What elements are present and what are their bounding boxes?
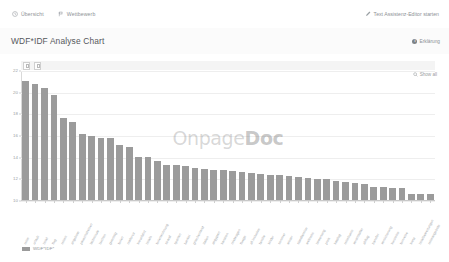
page-title-row: WDF*IDF Analyse Chart i Erklärung xyxy=(0,28,449,55)
flag-icon xyxy=(58,11,64,17)
y-axis-tick-label: 18 xyxy=(13,112,18,116)
bar[interactable] xyxy=(116,145,123,200)
bar[interactable] xyxy=(380,187,387,200)
bar[interactable] xyxy=(60,118,67,200)
bar-column xyxy=(96,71,105,200)
chart-panel: Show all 10121416182022 OnpageDoc reiseu… xyxy=(0,54,449,262)
bar-column xyxy=(284,71,293,200)
bar[interactable] xyxy=(88,136,95,200)
bar[interactable] xyxy=(192,168,199,201)
bar-column xyxy=(237,71,246,200)
bar[interactable] xyxy=(201,169,208,200)
x-axis-tick-label: preis xyxy=(325,237,332,245)
bar-column xyxy=(106,71,115,200)
bar[interactable] xyxy=(69,122,76,200)
bar[interactable] xyxy=(417,194,424,201)
x-axis-tick-label: urlaub xyxy=(33,235,41,245)
x-axis-tick-label: buchen xyxy=(99,233,107,245)
explanation-label: Erklärung xyxy=(419,39,440,44)
x-axis-tick-label: katalog xyxy=(334,233,342,245)
bar[interactable] xyxy=(229,171,236,200)
bar[interactable] xyxy=(352,183,359,200)
bar-column xyxy=(153,71,162,200)
explanation-link[interactable]: i Erklärung xyxy=(412,39,449,44)
x-axis-tick-label: fluege xyxy=(240,235,248,245)
bar-column xyxy=(21,71,30,200)
bar[interactable] xyxy=(248,173,255,200)
pencil-icon xyxy=(365,11,371,17)
bar[interactable] xyxy=(182,166,189,200)
x-axis-tick-label: ferien xyxy=(118,236,125,245)
bar[interactable] xyxy=(41,88,48,200)
bar[interactable] xyxy=(126,147,133,200)
bar[interactable] xyxy=(145,157,152,200)
start-text-assistant-editor-button[interactable]: Text Assistenz-Editor starten xyxy=(365,11,449,17)
bar-column xyxy=(228,71,237,200)
bar-column xyxy=(30,71,39,200)
bar-column xyxy=(407,71,416,200)
bar[interactable] xyxy=(427,194,434,201)
bar[interactable] xyxy=(408,194,415,201)
panel-toggle-2-button[interactable] xyxy=(34,62,41,70)
bar[interactable] xyxy=(107,138,114,200)
bar-column xyxy=(369,71,378,200)
bar[interactable] xyxy=(32,84,39,200)
y-axis-tick-label: 14 xyxy=(13,155,18,159)
x-axis-tick-label: kinder xyxy=(268,235,276,245)
bar[interactable] xyxy=(305,178,312,200)
bar-column xyxy=(341,71,350,200)
bar[interactable] xyxy=(257,174,264,200)
bar[interactable] xyxy=(267,175,274,200)
bar-column xyxy=(77,71,86,200)
bar[interactable] xyxy=(79,134,86,200)
bar[interactable] xyxy=(342,182,349,200)
bar[interactable] xyxy=(51,95,58,200)
y-axis-tick-label: 12 xyxy=(13,177,18,181)
bar-column xyxy=(219,71,228,200)
bar[interactable] xyxy=(154,161,161,200)
bar[interactable] xyxy=(295,177,302,200)
clock-icon xyxy=(12,11,18,17)
y-axis-tick-label: 22 xyxy=(13,69,18,73)
bar[interactable] xyxy=(239,172,246,200)
bar[interactable] xyxy=(286,176,293,200)
bar-column xyxy=(378,71,387,200)
bar-column xyxy=(313,71,322,200)
chart-legend-item[interactable]: WDF*IDF* xyxy=(22,246,54,251)
x-axis-tick-label: reisen xyxy=(61,235,69,245)
bar[interactable] xyxy=(135,157,142,200)
bar[interactable] xyxy=(323,179,330,200)
panel-toggle-1-button[interactable] xyxy=(23,62,30,70)
bar[interactable] xyxy=(276,175,283,200)
bar-column xyxy=(40,71,49,200)
bar-column xyxy=(181,71,190,200)
bar-column xyxy=(124,71,133,200)
bar-column xyxy=(59,71,68,200)
x-axis-tick-label: winter xyxy=(287,235,294,245)
bar[interactable] xyxy=(399,188,406,200)
bar[interactable] xyxy=(173,165,180,200)
bar-column xyxy=(360,71,369,200)
bar-column xyxy=(134,71,143,200)
bar[interactable] xyxy=(98,138,105,200)
nav-tab-wettbewerb[interactable]: Wettbewerb xyxy=(58,11,96,17)
bar[interactable] xyxy=(220,170,227,200)
nav-tab-wettbewerb-label: Wettbewerb xyxy=(67,11,96,17)
bar-column xyxy=(294,71,303,200)
bar[interactable] xyxy=(389,188,396,200)
bar[interactable] xyxy=(361,184,368,200)
x-axis-labels: reiseurlaubhotelflugreisenangebotepausch… xyxy=(21,203,435,245)
bar-column xyxy=(256,71,265,200)
legend-color-swatch xyxy=(22,247,30,251)
bar[interactable] xyxy=(22,81,29,200)
bar-column xyxy=(266,71,275,200)
bar[interactable] xyxy=(210,170,217,200)
nav-tab-uebersicht[interactable]: Übersicht xyxy=(12,11,44,17)
bar-column xyxy=(68,71,77,200)
bar-column xyxy=(397,71,406,200)
bar[interactable] xyxy=(314,179,321,200)
nav-tab-uebersicht-label: Übersicht xyxy=(21,11,44,17)
bar[interactable] xyxy=(370,187,377,200)
bar[interactable] xyxy=(163,165,170,200)
bar[interactable] xyxy=(333,181,340,201)
